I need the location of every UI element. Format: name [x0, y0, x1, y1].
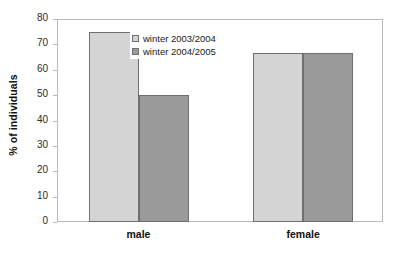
- bar: [89, 32, 139, 222]
- legend-item: winter 2003/2004: [132, 32, 216, 45]
- legend-label: winter 2003/2004: [143, 32, 216, 45]
- bars-layer: [57, 19, 383, 222]
- legend-item: winter 2004/2005: [132, 45, 216, 58]
- bar: [139, 95, 189, 222]
- y-axis-tick-label: 30: [37, 139, 48, 150]
- legend: winter 2003/2004winter 2004/2005: [130, 31, 218, 59]
- bar-chart: % of individuals 01020304050607080 malef…: [0, 0, 395, 261]
- legend-label: winter 2004/2005: [143, 45, 216, 58]
- y-axis-tick-mark: [53, 222, 57, 223]
- y-axis-tick-label: 20: [37, 164, 48, 175]
- x-axis-label: female: [253, 228, 353, 240]
- y-axis-ticks: 01020304050607080: [0, 19, 57, 222]
- y-axis-tick-label: 10: [37, 190, 48, 201]
- x-axis-label: male: [89, 228, 189, 240]
- bar: [253, 53, 303, 222]
- bar: [303, 53, 353, 222]
- y-axis-tick-label: 60: [37, 63, 48, 74]
- x-axis-labels: malefemale: [57, 228, 383, 248]
- y-axis-tick-label: 40: [37, 114, 48, 125]
- y-axis-tick-label: 50: [37, 88, 48, 99]
- y-axis-tick-label: 70: [37, 37, 48, 48]
- y-axis-tick-label: 80: [37, 12, 48, 23]
- legend-swatch-icon: [132, 35, 139, 42]
- legend-swatch-icon: [132, 48, 139, 55]
- y-axis-tick-label: 0: [42, 215, 48, 226]
